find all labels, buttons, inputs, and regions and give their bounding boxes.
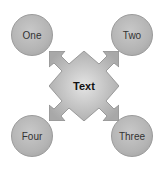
- node-two: Two: [111, 14, 153, 56]
- node-four: Four: [11, 115, 53, 157]
- node-one: One: [11, 14, 53, 56]
- node-label: Three: [119, 131, 145, 142]
- center-label: Text: [49, 51, 119, 121]
- node-label: Four: [22, 131, 43, 142]
- diagram-canvas: One Two Three Four Text: [0, 0, 167, 169]
- node-three: Three: [111, 115, 153, 157]
- node-label: Two: [123, 30, 141, 41]
- node-label: One: [23, 30, 42, 41]
